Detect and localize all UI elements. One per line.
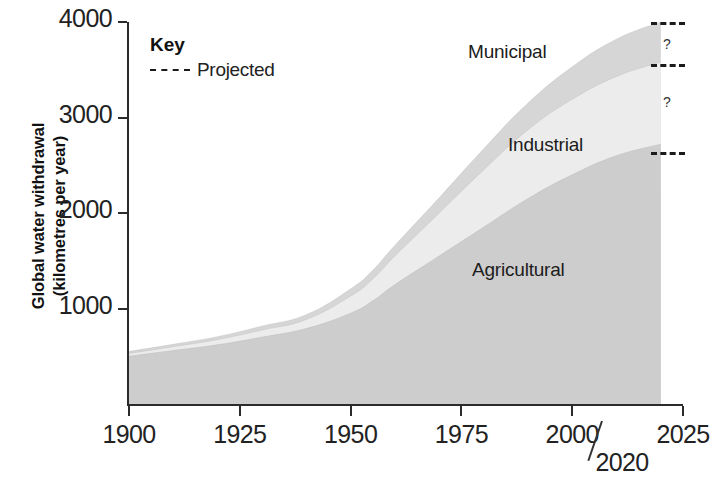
x-tick-2000 [571,406,573,416]
x-tick-1950 [350,406,352,416]
y-tick-label-text: 1000 [59,291,112,320]
y-tick-label-text: 4000 [59,4,112,33]
y-tick-label-text: 2000 [59,195,112,224]
band-label-municipal: Municipal [468,41,546,63]
projection-dash-top [651,22,685,25]
legend-item-projected: Projected [150,58,275,82]
x-tick-label-1975: 1975 [435,420,488,449]
y-tick-label-text: 3000 [59,100,112,129]
projection-dash-industrial-lower [651,152,685,155]
x-tick-label-1925: 1925 [213,420,266,449]
x-tick-1925 [239,406,241,416]
legend-key-box: Key Projected [140,28,289,89]
y-tick-2000 [118,212,127,214]
y-tick-1000 [118,308,127,310]
x-axis-line [127,404,683,406]
callout-label-2020: 2020 [595,448,648,477]
dashed-line-icon [150,69,190,71]
y-tick-3000 [118,117,127,119]
band-label-agricultural: Agricultural [472,259,565,281]
projection-question-industrial: ? [663,94,671,110]
x-tick-2025 [682,406,684,416]
x-tick-1900 [128,406,130,416]
y-axis-line [127,22,129,406]
x-tick-1975 [460,406,462,416]
band-label-industrial: Industrial [508,134,583,156]
x-tick-label-2000: 2000 [546,420,599,449]
projection-dash-municipal-lower [651,64,685,67]
x-tick-label-1900: 1900 [102,420,155,449]
x-tick-label-1950: 1950 [324,420,377,449]
legend-title: Key [150,33,275,57]
projection-question-municipal: ? [663,36,671,52]
y-axis-title-line1: Global water withdrawal [28,21,49,411]
legend-item-label: Projected [197,58,275,82]
y-tick-4000 [118,21,127,23]
x-tick-label-2025: 2025 [656,420,709,449]
